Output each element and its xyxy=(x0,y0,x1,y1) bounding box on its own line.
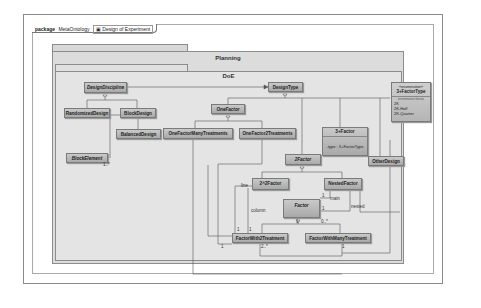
mult-many-treatment: 1 xyxy=(342,244,345,249)
class-3plus-factor-name: 3+Factor xyxy=(323,128,367,136)
class-2x2-factor[interactable]: 2^2Factor xyxy=(252,178,289,190)
mult-left: 1 xyxy=(221,244,224,249)
label-main: main xyxy=(330,196,340,201)
class-3plus-factor[interactable]: 3+Factor -type : 3+FactorType xyxy=(322,127,368,156)
enum-literal: 2K-Quarter xyxy=(392,111,430,116)
class-other-design[interactable]: OtherDesign xyxy=(368,156,404,166)
class-one-factor-2-treatments[interactable]: OneFactor2Treatments xyxy=(239,128,296,139)
class-design-type[interactable]: DesignType xyxy=(268,82,303,92)
block-element-multiplicity: 1..* xyxy=(103,162,110,167)
mult-main: 1 xyxy=(322,193,325,198)
class-nested-factor[interactable]: NestedFactor xyxy=(324,178,362,190)
class-3plus-factor-attribute: -type : 3+FactorType xyxy=(323,143,367,150)
class-randomized-design[interactable]: RandomizedDesign xyxy=(64,108,110,118)
class-2factor[interactable]: 2Factor xyxy=(285,154,321,165)
class-block-design[interactable]: BlockDesign xyxy=(120,108,156,118)
class-factor-with-2-treatment[interactable]: FactorWith2Treatment xyxy=(232,233,288,243)
label-line: line xyxy=(241,183,248,188)
label-nested: nested xyxy=(351,204,365,209)
class-block-element[interactable]: BlockElement xyxy=(66,153,108,163)
label-column: column xyxy=(251,208,266,213)
class-one-factor[interactable]: OneFactor xyxy=(211,104,245,114)
class-factor-with-many-treatment[interactable]: FactorWithManyTreatment xyxy=(305,233,371,243)
mult-line: 1 xyxy=(237,227,240,232)
class-factor[interactable]: Factor xyxy=(283,199,320,218)
class-one-factor-many-treatments[interactable]: OneFactorManyTreatments xyxy=(163,128,233,139)
mult-factor-bottom: 1 xyxy=(296,219,299,224)
enum-3plus-factor-type[interactable]: «enumeration» 3+FactorType enumeration l… xyxy=(391,82,431,122)
class-balanced-design[interactable]: BalancedDesign xyxy=(116,129,161,139)
enum-name: 3+FactorType xyxy=(392,89,430,94)
mult-factor-zero-many: 0..* xyxy=(321,219,328,224)
class-design-discipline[interactable]: DesignDiscipline xyxy=(84,82,127,93)
mult-two-many: 2..* xyxy=(261,244,268,249)
mult-nested: 1 xyxy=(322,206,325,211)
class-separator xyxy=(323,136,367,143)
mult-column: 1 xyxy=(249,227,252,232)
